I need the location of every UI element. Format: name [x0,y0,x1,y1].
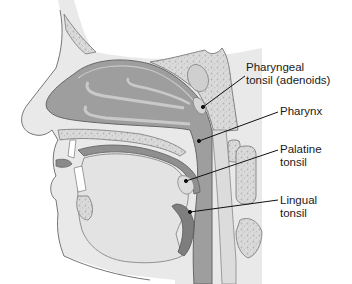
label-line: tonsil [280,156,322,169]
label-line: Palatine [280,143,322,156]
label-line: Lingual [280,194,317,207]
label-pharyngeal-tonsil: Pharyngeal tonsil (adenoids) [246,61,330,87]
vertebra [236,146,256,204]
anatomy-diagram [0,0,352,284]
label-line: Pharyngeal [246,61,330,74]
label-lingual-tonsil: Lingual tonsil [280,194,317,220]
label-line: tonsil [280,207,317,220]
label-line: tonsil (adenoids) [246,74,330,87]
label-palatine-tonsil: Palatine tonsil [280,143,322,169]
tongue [78,154,189,263]
label-pharynx: Pharynx [280,105,322,118]
label-line: Pharynx [280,105,322,118]
